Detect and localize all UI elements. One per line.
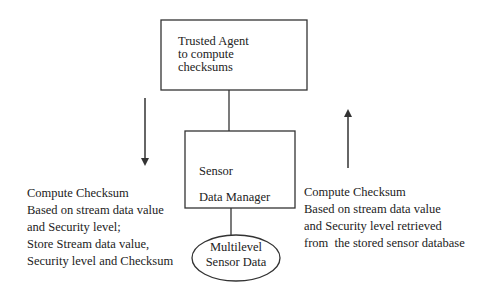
trusted-agent-line-3: checksums — [178, 61, 249, 74]
trusted-agent-label: Trusted Agent to compute checksums — [178, 35, 249, 74]
sensor-data-manager-label-2: Data Manager — [199, 191, 270, 204]
store-flow-line-5: Security level and Checksum — [27, 253, 173, 270]
retrieve-flow-line-3: and Security level retrieved — [304, 218, 465, 235]
store-flow-description: Compute Checksum Based on stream data va… — [27, 185, 173, 270]
store-flow-line-2: Based on stream data value — [27, 202, 173, 219]
retrieve-flow-line-2: Based on stream data value — [304, 201, 465, 218]
sensor-data-manager-line-2: Data Manager — [199, 191, 270, 204]
multilevel-sensor-data-label: Multilevel Sensor Data — [198, 240, 274, 270]
retrieve-flow-line-1: Compute Checksum — [304, 184, 465, 201]
retrieve-flow-line-4: from the stored sensor database — [304, 235, 465, 252]
store-flow-line-4: Store Stream data value, — [27, 236, 173, 253]
retrieve-flow-description: Compute Checksum Based on stream data va… — [304, 184, 465, 252]
store-flow-line-1: Compute Checksum — [27, 185, 173, 202]
sensor-data-manager-line-1: Sensor — [199, 164, 233, 178]
multilevel-sensor-data-line-2: Sensor Data — [198, 255, 274, 270]
sensor-data-manager-label: Sensor — [199, 164, 233, 192]
store-flow-line-3: and Security level; — [27, 219, 173, 236]
multilevel-sensor-data-line-1: Multilevel — [198, 240, 274, 255]
